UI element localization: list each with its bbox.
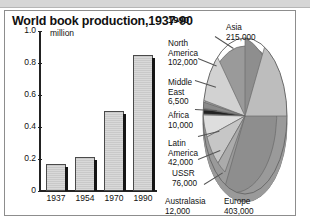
bar-chart: million 00.20.40.60.81.0 193719541970199…	[8, 26, 158, 212]
pie-label-europe: Europe 403,000	[224, 188, 254, 216]
y-tick-label: 0.2	[10, 153, 36, 163]
bar-shadow	[65, 167, 68, 191]
pie-label-middle-east-name: Middle East	[168, 78, 192, 96]
pie-label-north-america-name: North America	[168, 39, 198, 57]
bar	[133, 55, 153, 191]
y-tick-label: 0	[10, 185, 36, 195]
pie-label-north-america: North America 102,000	[168, 30, 198, 68]
pie-label-europe-name: Europe	[224, 197, 250, 206]
bar	[75, 157, 95, 191]
bar-shadow	[94, 160, 97, 191]
bar	[46, 164, 66, 191]
bar-plot-area	[41, 31, 157, 191]
pie-label-australasia-name: Australasia	[165, 197, 206, 206]
pie-label-north-america-value: 102,000	[168, 58, 198, 67]
bar	[104, 111, 124, 191]
pie-label-middle-east: Middle East 6,500	[168, 69, 192, 107]
pie-label-africa-name: Africa	[168, 111, 189, 120]
x-tick-label: 1990	[126, 193, 160, 203]
pie-label-latin-america-name: Latin America	[168, 139, 198, 157]
pie-label-asia-value: 215,000	[226, 33, 256, 42]
pie-label-ussr-value: 76,000	[172, 179, 197, 188]
pie-label-asia: Asia 215,000	[226, 14, 256, 42]
pie-label-africa: Africa 10,000	[168, 102, 193, 130]
bar-shadow	[123, 114, 126, 191]
y-tick-label: 1.0	[10, 25, 36, 35]
pie-year-label: 1990	[168, 14, 189, 25]
y-tick: 0	[8, 191, 158, 192]
pie-chart: 1990	[160, 12, 296, 216]
pie-label-asia-name: Asia	[226, 23, 242, 32]
pie-label-australasia-value: 12,000	[165, 207, 190, 216]
panel-right-margin	[297, 10, 310, 216]
pie-label-africa-value: 10,000	[168, 121, 193, 130]
pie-label-ussr-name: USSR	[172, 169, 195, 178]
bar-shadow	[152, 58, 155, 191]
y-tick-label: 0.6	[10, 89, 36, 99]
pie-label-europe-value: 403,000	[224, 207, 254, 216]
pie-label-ussr: USSR 76,000	[172, 160, 197, 188]
top-band-divider	[0, 7, 310, 8]
y-tick-label: 0.8	[10, 57, 36, 67]
figure-root: World book production,1937-90 million 00…	[0, 0, 310, 222]
pie-label-australasia: Australasia 12,000	[165, 188, 206, 216]
y-tick-label: 0.4	[10, 121, 36, 131]
